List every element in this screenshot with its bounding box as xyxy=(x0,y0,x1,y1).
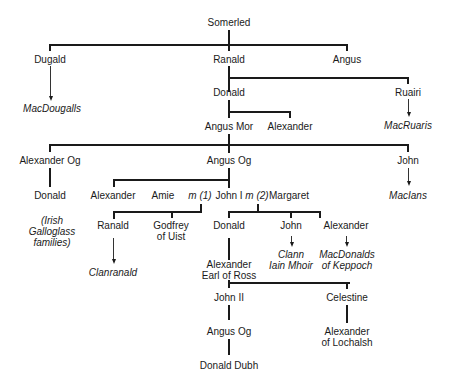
connector xyxy=(113,179,230,181)
node-alexander-earl-of-ross: Alexander Earl of Ross xyxy=(202,259,256,281)
arrow-down-icon xyxy=(407,181,411,186)
node-john-ii: John II xyxy=(214,292,244,303)
marriage-label-2: m (2) xyxy=(245,190,268,201)
node-somerled: Somerled xyxy=(208,17,251,28)
arrow-down-icon xyxy=(112,259,116,264)
connector xyxy=(49,144,51,152)
connector xyxy=(228,44,230,51)
connector xyxy=(289,111,291,118)
node-amie: Amie xyxy=(152,190,175,201)
node-angus: Angus xyxy=(333,54,361,65)
connector xyxy=(407,144,409,152)
connector xyxy=(49,44,348,46)
node-ranald: Ranald xyxy=(213,54,245,65)
node-macdonalds-of-keppoch: MacDonalds of Keppoch xyxy=(319,249,375,271)
connector xyxy=(171,211,173,218)
node-alexander: Alexander xyxy=(90,190,135,201)
node-macians: MacIans xyxy=(389,190,427,201)
node-ranald: Ranald xyxy=(97,220,129,231)
node-irish-galloglass-families: (Irish Galloglass families) xyxy=(29,215,76,248)
node-celestine: Celestine xyxy=(326,292,368,303)
node-angus-og: Angus Og xyxy=(207,155,251,166)
node-alexander: Alexander xyxy=(267,121,312,132)
connector xyxy=(346,282,348,289)
connector xyxy=(228,111,291,113)
node-angus-og: Angus Og xyxy=(207,326,251,337)
node-clanranald: Clanranald xyxy=(89,267,137,278)
node-dugald: Dugald xyxy=(34,54,66,65)
connector xyxy=(228,211,321,213)
node-john: John xyxy=(280,220,302,231)
connector xyxy=(228,211,230,218)
connector xyxy=(290,211,292,218)
connector xyxy=(407,77,409,84)
connector xyxy=(113,179,115,187)
connector xyxy=(228,100,230,118)
node-alexander-of-lochalsh: Alexander of Lochalsh xyxy=(321,326,372,348)
node-clann-iain-mhoir: Clann Iain Mhoir xyxy=(269,249,313,271)
node-donald: Donald xyxy=(213,220,245,231)
connector xyxy=(113,211,115,219)
node-john: John xyxy=(397,155,419,166)
marriage-label-1: m (1) xyxy=(188,190,211,201)
connector xyxy=(228,77,409,79)
descent-line xyxy=(408,168,409,182)
connector xyxy=(49,144,409,146)
node-angus-mor: Angus Mor xyxy=(205,121,253,132)
arrow-down-icon xyxy=(290,242,294,247)
arrow-down-icon xyxy=(407,112,411,117)
descent-line xyxy=(50,66,51,96)
connector xyxy=(346,305,348,323)
node-alexander: Alexander xyxy=(323,220,368,231)
node-john-i: John I xyxy=(215,190,242,201)
connector xyxy=(228,339,230,355)
family-tree-diagram: Somerled Dugald Ranald Angus MacDougalls… xyxy=(0,0,452,384)
connector xyxy=(228,168,230,188)
descent-line xyxy=(408,99,409,113)
node-donald: Donald xyxy=(34,190,66,201)
connector xyxy=(228,280,230,288)
node-margaret: Margaret xyxy=(269,190,309,201)
node-macdougalls: MacDougalls xyxy=(23,103,81,114)
connector xyxy=(228,30,230,45)
node-donald-dubh: Donald Dubh xyxy=(200,360,258,371)
connector xyxy=(228,238,230,260)
connector xyxy=(49,44,51,51)
node-ruairi: Ruairi xyxy=(395,87,421,98)
connector xyxy=(346,44,348,51)
node-donald: Donald xyxy=(213,87,245,98)
connector xyxy=(228,305,230,320)
node-macruaris: MacRuaris xyxy=(384,120,432,131)
connector xyxy=(319,211,321,218)
node-godfrey-of-uist: Godfrey of Uist xyxy=(153,220,189,242)
connector xyxy=(49,168,51,187)
connector xyxy=(113,211,202,213)
connector xyxy=(228,282,350,284)
arrow-down-icon xyxy=(49,96,53,101)
arrow-down-icon xyxy=(345,242,349,247)
node-alexander-og: Alexander Og xyxy=(19,155,80,166)
descent-line xyxy=(113,238,114,260)
